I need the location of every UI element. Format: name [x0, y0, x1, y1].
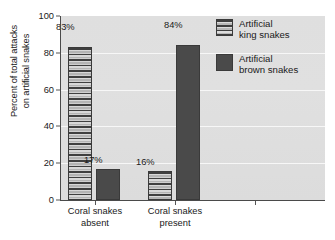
- y-tick-label-20: 20: [28, 158, 54, 168]
- legend-king-line-2: king snakes: [239, 29, 290, 40]
- legend-brown-line-2: brown snakes: [239, 64, 298, 75]
- legend-label-king-snakes: Artificial king snakes: [239, 18, 290, 41]
- bar-king-snakes-present: [148, 171, 172, 200]
- x-tick-mark-group-1: [95, 201, 96, 205]
- legend: Artificial king snakes Artificial brown …: [216, 18, 328, 88]
- bar-chart: Percent of total attacks on artificial s…: [0, 0, 335, 240]
- legend-label-brown-snakes: Artificial brown snakes: [239, 53, 298, 76]
- y-axis-title-line-1: Percent of total attacks: [9, 0, 21, 151]
- legend-item-king-snakes: Artificial king snakes: [216, 18, 328, 41]
- bar-brown-snakes-present: [176, 45, 200, 200]
- bar-king-snakes-absent: [68, 47, 92, 200]
- bar-value-brown-present: 84%: [164, 20, 183, 30]
- y-axis-tick-labels: 100 80 60 40 20 0: [28, 0, 54, 240]
- x-category-label-present: Coral snakes present: [120, 206, 230, 229]
- x-tick-mark-group-2: [175, 201, 176, 205]
- bar-value-king-present: 16%: [136, 157, 155, 167]
- legend-swatch-king-snakes: [216, 19, 233, 36]
- bar-value-king-absent: 83%: [56, 22, 75, 32]
- y-axis-line: [60, 16, 61, 201]
- legend-brown-line-1: Artificial: [239, 53, 298, 64]
- x-category-present-line-1: Coral snakes: [120, 206, 230, 218]
- x-category-present-line-2: present: [120, 218, 230, 230]
- x-tick-mark-end: [255, 201, 256, 205]
- y-tick-label-100: 100: [28, 11, 54, 21]
- y-tick-label-40: 40: [28, 121, 54, 131]
- y-tick-label-80: 80: [28, 48, 54, 58]
- y-tick-label-0: 0: [28, 195, 54, 205]
- bar-brown-snakes-absent: [96, 169, 120, 200]
- x-axis-line: [60, 200, 325, 201]
- legend-king-line-1: Artificial: [239, 18, 290, 29]
- legend-item-brown-snakes: Artificial brown snakes: [216, 53, 328, 76]
- bar-value-brown-absent: 17%: [84, 155, 103, 165]
- legend-swatch-brown-snakes: [216, 54, 233, 71]
- y-tick-label-60: 60: [28, 85, 54, 95]
